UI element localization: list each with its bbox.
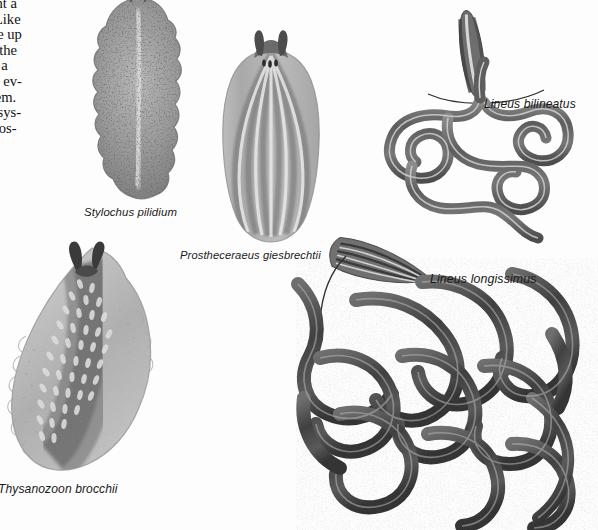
lineus-bilineatus-head-inset <box>428 9 544 103</box>
figure-thysanozoon-brocchii <box>0 240 196 486</box>
body-text-line: on. Like <box>0 12 84 28</box>
figure-stylochus-pilidium <box>82 0 198 202</box>
body-text-line: made up <box>0 27 84 43</box>
caption-lineus-bilineatus: Lineus bilineatus <box>484 97 576 111</box>
body-text-line: have ev- <box>0 74 84 90</box>
figure-prostheceraeus-giesbrechtii <box>212 28 330 246</box>
body-text-line: resent a <box>0 0 84 12</box>
body-text-column: resent a on. Like made up reas the g by … <box>0 0 84 136</box>
caption-stylochus-pilidium: Stylochus pilidium <box>84 206 177 218</box>
body-text-line: system. <box>0 90 84 106</box>
figure-lineus-bilineatus <box>352 6 596 246</box>
body-text-line: probos- <box>0 121 84 137</box>
body-text-line: g by a <box>0 58 84 74</box>
caption-thysanozoon-brocchii: Thysanozoon brocchii <box>0 482 118 496</box>
caption-lineus-longissimus: Lineus longissimus <box>430 272 537 286</box>
body-text-line: reas the <box>0 43 84 59</box>
body-text-line: ood sys- <box>0 105 84 121</box>
